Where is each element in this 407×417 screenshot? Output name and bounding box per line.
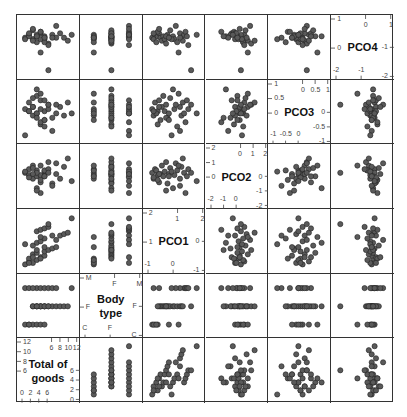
axis-tick-label: M (137, 280, 143, 288)
scatter-points (17, 209, 80, 274)
scatter-points (17, 274, 80, 339)
diagonal-label-panel: PCO40110-1-2-2-1 (331, 15, 394, 80)
axis-tick-label: 0 (321, 108, 325, 116)
scatter-panel (143, 338, 206, 403)
axis-tick-label: -2 (333, 66, 339, 74)
axis-tick-label: 2 (263, 150, 267, 158)
scatter-panel (268, 338, 331, 403)
scatter-points (206, 15, 269, 80)
scatterplot-matrix: PCO40110-1-2-2-1PCO300.5110.500-0.5-1-1-… (16, 14, 393, 402)
axis-tick-label: 1 (389, 21, 393, 29)
scatter-points (331, 274, 394, 339)
scatter-panel (206, 209, 269, 274)
scatter-panel (143, 80, 206, 145)
diagonal-label-panel: PCO20122100-1-2-2-10 (206, 144, 269, 209)
axis-tick-label: 6 (23, 367, 27, 375)
scatter-points (143, 144, 206, 209)
scatter-panel (331, 80, 394, 145)
scatter-panel (17, 80, 80, 145)
scatter-panel (268, 15, 331, 80)
scatter-points (331, 80, 394, 145)
axis-tick-label: C (82, 324, 87, 332)
scatter-points (80, 15, 143, 80)
axis-tick-label: 2 (70, 386, 74, 394)
axis-tick-label: -1 (270, 130, 276, 138)
axis-tick-label: -1 (145, 260, 151, 268)
scatter-points (331, 338, 394, 403)
axis-tick-label: -1 (220, 195, 226, 203)
axis-tick-label: 1 (212, 159, 216, 167)
scatter-points (80, 209, 143, 274)
axis-tick-label: 1 (326, 86, 330, 94)
axis-tick-label: 8 (23, 358, 27, 366)
diagonal-label-panel: Total ofgoods68101212108664200246 (17, 338, 80, 403)
axis-tick-label: 2 (200, 215, 204, 223)
scatter-panel (331, 274, 394, 339)
diagonal-label-panel: BodytypeFMMFFCCF (80, 274, 143, 339)
scatter-panel (143, 15, 206, 80)
axis-tick-label: 1 (274, 80, 278, 88)
scatter-panel (331, 144, 394, 209)
scatter-points (331, 144, 394, 209)
axis-tick-label: -0.5 (313, 123, 325, 131)
axis-tick-label: -1 (358, 66, 364, 74)
axis-tick-label: -0.5 (280, 130, 292, 138)
axis-tick-label: 0 (234, 195, 238, 203)
axis-tick-label: 0 (274, 109, 278, 117)
axis-tick-label: 4 (37, 389, 41, 397)
scatter-points (268, 15, 331, 80)
scatter-panel (268, 209, 331, 274)
scatter-panel (80, 144, 143, 209)
axis-tick-label: -2 (207, 195, 213, 203)
axis-tick-label: 6 (45, 389, 49, 397)
scatter-panel (80, 209, 143, 274)
scatter-panel (268, 274, 331, 339)
axis-tick-label: 1 (251, 150, 255, 158)
scatter-points (268, 209, 331, 274)
axis-tick-label: 0 (171, 260, 175, 268)
axis-tick-label: 2 (149, 209, 153, 217)
scatter-panel (17, 144, 80, 209)
scatter-panel (143, 274, 206, 339)
diagonal-label-panel: PCO300.5110.500-0.5-1-1-0.50 (268, 80, 331, 145)
scatter-panel (17, 274, 80, 339)
scatter-panel (206, 338, 269, 403)
axis-tick-label: 6 (70, 367, 74, 375)
scatter-points (143, 15, 206, 80)
axis-tick-label: 1 (175, 215, 179, 223)
scatter-points (80, 338, 143, 403)
scatter-points (17, 144, 80, 209)
axis-tick-label: 0 (337, 44, 341, 52)
scatter-points (206, 209, 269, 274)
axis-tick-label: 1 (337, 15, 341, 23)
axis-tick-label: 0 (297, 130, 301, 138)
axis-tick-label: 0.5 (311, 86, 321, 94)
scatter-points (17, 15, 80, 80)
scatter-points (143, 80, 206, 145)
axis-tick-label: M (86, 274, 92, 282)
axis-tick-label: -1 (256, 187, 262, 195)
scatter-points (143, 274, 206, 339)
scatter-points (80, 144, 143, 209)
axis-tick-label: 0 (212, 173, 216, 181)
axis-tick-label: 6 (50, 344, 54, 352)
scatter-panel (80, 15, 143, 80)
axis-tick-label: 0 (70, 396, 74, 404)
scatter-points (268, 338, 331, 403)
axis-tick-label: 0.5 (274, 94, 284, 102)
scatter-panel (206, 274, 269, 339)
axis-tick-label: 10 (23, 348, 31, 356)
scatter-panel (143, 144, 206, 209)
scatter-points (143, 338, 206, 403)
axis-tick-label: 2 (28, 389, 32, 397)
axis-tick-label: 2 (212, 144, 216, 152)
scatter-panel (17, 209, 80, 274)
scatter-panel (331, 209, 394, 274)
scatter-points (206, 274, 269, 339)
axis-tick-label: 1 (149, 238, 153, 246)
axis-tick-label: 4 (70, 376, 74, 384)
scatter-points (331, 209, 394, 274)
axis-tick-label: 0 (196, 237, 200, 245)
axis-tick-label: 10 (64, 344, 72, 352)
scatter-panel (80, 80, 143, 145)
